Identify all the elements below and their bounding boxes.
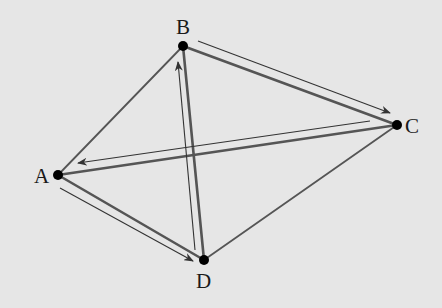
edges-group [58,46,397,260]
edge-c-d [204,125,397,260]
vertex-label-a: A [34,164,50,188]
vertex-label-c: C [405,114,419,138]
vertex-d [199,255,209,265]
edge-a-b [58,46,183,175]
edge-c-a [58,125,397,175]
arrow-a-to-d-icon [60,188,193,261]
vertex-label-d: D [196,269,211,293]
vertices-group [53,41,402,265]
vertex-labels-group: ABCD [34,15,419,293]
edge-b-c [183,46,397,125]
vertex-label-b: B [176,15,190,39]
graph-diagram: ABCD [0,0,442,308]
arrow-b-to-c-icon [198,41,390,113]
vertex-a [53,170,63,180]
vertex-c [392,120,402,130]
arrow-c-to-a-icon [78,121,370,163]
vertex-b [178,41,188,51]
edge-a-d [58,175,204,260]
